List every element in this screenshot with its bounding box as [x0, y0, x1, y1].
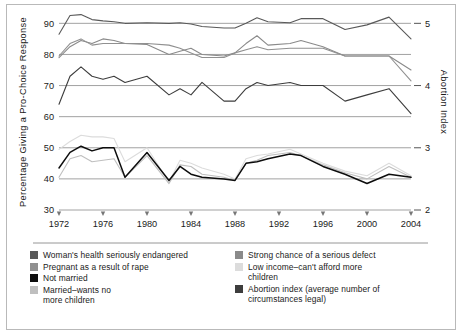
y2-axis-title: Abortion Index — [439, 70, 449, 134]
x-axis-tick-label: 1972 — [49, 219, 69, 229]
legend-item: Abortion index (average number ofcircums… — [235, 284, 435, 305]
legend-item-label: Married–wants nomore children — [43, 285, 111, 306]
legend-swatch-icon — [235, 263, 243, 271]
series-line-0 — [59, 15, 411, 39]
x-axis-tick-mark — [101, 212, 105, 217]
legend-item: Married–wants nomore children — [30, 285, 235, 306]
legend-swatch-icon — [235, 251, 243, 259]
y-axis-tick-label: 50 — [44, 143, 54, 153]
x-axis-tick-mark — [409, 212, 413, 217]
legend-column-left: Woman's health seriously endangered Preg… — [30, 250, 235, 330]
legend-swatch-icon — [30, 274, 38, 282]
chart-page: 3040506070809023451972197619801984198819… — [0, 0, 463, 335]
legend-item: Not married — [30, 273, 235, 284]
legend-item: Low income–can't afford morechildren — [235, 262, 435, 283]
y-axis-title: Percentage Giving a Pro-Choice Response — [18, 17, 28, 207]
y2-axis-tick-label: 4 — [425, 81, 430, 91]
legend-item-label: Woman's health seriously endangered — [43, 250, 188, 261]
legend-item: Woman's health seriously endangered — [30, 250, 235, 261]
x-axis-tick-mark — [277, 212, 281, 217]
legend-swatch-icon — [30, 263, 38, 271]
y-axis-tick-label: 40 — [44, 174, 54, 184]
x-axis-tick-mark — [321, 212, 325, 217]
legend-swatch-icon — [235, 285, 243, 293]
x-axis-tick-mark — [365, 212, 369, 217]
legend-item: Pregnant as a result of rape — [30, 262, 235, 273]
x-axis-tick-mark — [57, 212, 61, 217]
y-axis-tick-label: 90 — [44, 19, 54, 29]
legend-item-label: Abortion index (average number ofcircums… — [248, 284, 380, 305]
x-axis-tick-label: 1988 — [225, 219, 245, 229]
legend-swatch-icon — [30, 286, 38, 294]
legend-item-label: Low income–can't afford morechildren — [248, 262, 362, 283]
line-chart-svg: 3040506070809023451972197619801984198819… — [0, 0, 463, 248]
legend-item-label: Pregnant as a result of rape — [43, 262, 149, 273]
legend-item: Strong chance of a serious defect — [235, 250, 435, 261]
chart-legend: Woman's health seriously endangered Preg… — [30, 250, 440, 330]
y2-axis-tick-label: 3 — [425, 143, 430, 153]
y2-axis-tick-label: 5 — [425, 19, 430, 29]
x-axis-tick-label: 1996 — [313, 219, 333, 229]
legend-item-label: Strong chance of a serious defect — [248, 250, 376, 261]
x-axis-tick-label: 1984 — [181, 219, 201, 229]
legend-swatch-icon — [30, 251, 38, 259]
x-axis-tick-mark — [233, 212, 237, 217]
y2-axis-tick-label: 2 — [425, 205, 430, 215]
x-axis-tick-mark — [189, 212, 193, 217]
y-axis-tick-label: 60 — [44, 112, 54, 122]
y-axis-tick-label: 30 — [44, 205, 54, 215]
x-axis-tick-label: 2004 — [401, 219, 421, 229]
x-axis-tick-label: 1976 — [93, 219, 113, 229]
x-axis-tick-mark — [145, 212, 149, 217]
y-axis-tick-label: 70 — [44, 81, 54, 91]
chart-plot-area: 3040506070809023451972197619801984198819… — [0, 0, 463, 248]
legend-item-label: Not married — [43, 273, 88, 284]
x-axis-tick-label: 1992 — [269, 219, 289, 229]
y-axis-tick-label: 80 — [44, 50, 54, 60]
x-axis-tick-label: 2000 — [357, 219, 377, 229]
x-axis-tick-label: 1980 — [137, 219, 157, 229]
series-line-3 — [59, 67, 411, 114]
series-line-2 — [59, 39, 411, 81]
legend-column-right: Strong chance of a serious defect Low in… — [235, 250, 435, 330]
